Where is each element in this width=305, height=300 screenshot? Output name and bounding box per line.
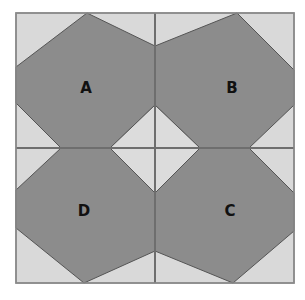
label-b: B — [226, 79, 237, 97]
label-c: C — [224, 202, 235, 220]
label-d: D — [78, 202, 90, 220]
label-a: A — [80, 79, 92, 97]
quilt-block-diagram: A B C D — [0, 0, 305, 300]
